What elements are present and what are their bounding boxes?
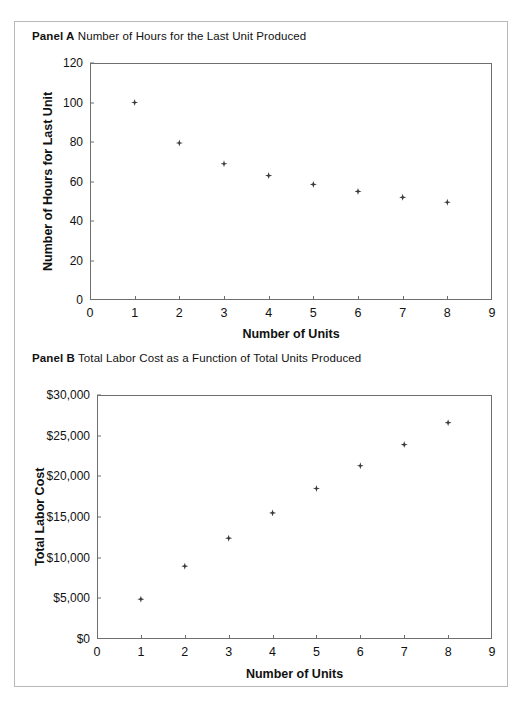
panel-b-y-tick-mark xyxy=(97,435,101,436)
panel-b-x-tick-label: 9 xyxy=(489,639,496,659)
panel-b-x-tick-label: 6 xyxy=(357,639,364,659)
panel-b-x-tick-label: 5 xyxy=(313,639,320,659)
panel-b-y-tick-mark xyxy=(97,476,101,477)
panel-b-y-tick-mark xyxy=(97,517,101,518)
panel-a-x-axis-title: Number of Units xyxy=(90,327,492,341)
panel-b-x-tick-mark xyxy=(185,635,186,639)
figure-frame: Panel A Number of Hours for the Last Uni… xyxy=(14,21,508,687)
panel-b-x-tick-mark xyxy=(448,635,449,639)
panel-b-y-tick-label: $30,000 xyxy=(47,388,97,402)
panel-a-x-tick-label: 8 xyxy=(444,300,451,320)
panel-b-x-tick-mark xyxy=(229,635,230,639)
panel-b-y-tick-mark xyxy=(97,557,101,558)
panel-a-x-tick-label: 7 xyxy=(399,300,406,320)
panel-a-y-tick-mark xyxy=(90,221,94,222)
panel-b-x-tick-mark xyxy=(273,635,274,639)
panel-a-y-tick-label: 40 xyxy=(70,214,90,228)
panel-a-x-tick-mark xyxy=(135,296,136,300)
panel-b-x-tick-label: 1 xyxy=(137,639,144,659)
panel-a-y-tick-label: 60 xyxy=(70,175,90,189)
panel-a-x-tick-label: 9 xyxy=(489,300,496,320)
panel-b-label: Panel B xyxy=(32,352,75,364)
panel-b-y-tick-label: $5,000 xyxy=(53,591,97,605)
panel-a-title: Number of Hours for the Last Unit Produc… xyxy=(78,30,307,42)
panel-b-x-tick-label: 8 xyxy=(445,639,452,659)
panel-b-y-tick-label: $15,000 xyxy=(47,510,97,524)
panel-b-plot-frame xyxy=(97,395,492,639)
panel-b-heading: Panel B Total Labor Cost as a Function o… xyxy=(32,352,361,364)
panel-a-x-tick-mark xyxy=(179,296,180,300)
panel-a-y-tick-label: 80 xyxy=(70,135,90,149)
panel-a-x-tick-label: 1 xyxy=(131,300,138,320)
panel-a-x-tick-mark xyxy=(313,296,314,300)
panel-a-y-tick-mark xyxy=(90,181,94,182)
panel-a-y-tick-mark xyxy=(90,260,94,261)
panel-b-x-tick-mark xyxy=(360,635,361,639)
panel-a-y-axis-title: Number of Hours for Last Unit xyxy=(41,92,55,271)
panel-b-x-axis-title: Number of Units xyxy=(97,667,492,681)
panel-a-x-tick-label: 5 xyxy=(310,300,317,320)
panel-a-x-tick-mark xyxy=(224,296,225,300)
panel-b-x-tick-mark xyxy=(141,635,142,639)
panel-a-x-tick-label: 2 xyxy=(176,300,183,320)
panel-a-plot-area: 0204060801001200123456789 xyxy=(90,63,492,300)
panel-a-x-tick-label: 3 xyxy=(221,300,228,320)
panel-b-y-tick-label: $10,000 xyxy=(47,551,97,565)
panel-a-label: Panel A xyxy=(32,30,74,42)
panel-a-y-tick-label: 100 xyxy=(63,96,90,110)
panel-a-plot-frame xyxy=(90,63,492,300)
panel-b-y-axis-title: Total Labor Cost xyxy=(33,468,47,566)
panel-b-x-tick-label: 7 xyxy=(401,639,408,659)
panel-b-x-tick-label: 2 xyxy=(181,639,188,659)
panel-b-x-tick-label: 4 xyxy=(269,639,276,659)
panel-a-y-tick-mark xyxy=(90,63,94,64)
panel-a-x-tick-mark xyxy=(447,296,448,300)
panel-b-y-tick-label: $25,000 xyxy=(47,429,97,443)
panel-a-x-tick-label: 4 xyxy=(265,300,272,320)
panel-b-x-tick-label: 3 xyxy=(225,639,232,659)
panel-b-x-tick-label: 0 xyxy=(94,639,101,659)
panel-a-y-tick-mark xyxy=(90,102,94,103)
panel-b-plot-area: $0$5,000$10,000$15,000$20,000$25,000$30,… xyxy=(97,395,492,639)
panel-a-y-tick-label: 120 xyxy=(63,56,90,70)
panel-a-x-tick-label: 6 xyxy=(355,300,362,320)
panel-a-heading: Panel A Number of Hours for the Last Uni… xyxy=(32,30,306,42)
panel-b-y-tick-label: $20,000 xyxy=(47,469,97,483)
panel-a-x-tick-mark xyxy=(269,296,270,300)
panel-b-y-tick-mark xyxy=(97,395,101,396)
panel-a-y-tick-mark xyxy=(90,142,94,143)
panel-b-x-tick-mark xyxy=(316,635,317,639)
panel-b-title: Total Labor Cost as a Function of Total … xyxy=(78,352,361,364)
panel-a-y-tick-label: 20 xyxy=(70,254,90,268)
panel-a-x-tick-mark xyxy=(403,296,404,300)
panel-b-x-tick-mark xyxy=(404,635,405,639)
panel-b-y-tick-mark xyxy=(97,598,101,599)
panel-a-x-tick-label: 0 xyxy=(87,300,94,320)
panel-a-x-tick-mark xyxy=(358,296,359,300)
